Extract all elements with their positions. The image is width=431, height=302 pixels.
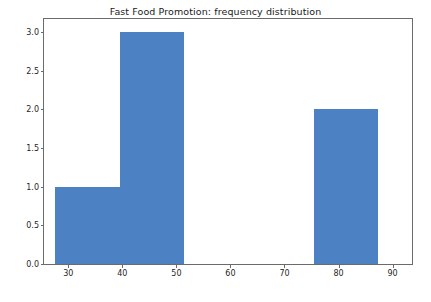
y-tick-mark bbox=[41, 71, 45, 72]
chart-figure: Fast Food Promotion: frequency distribut… bbox=[0, 0, 431, 302]
y-tick-label: 2.0 bbox=[26, 105, 39, 114]
x-tick-label: 70 bbox=[279, 269, 289, 278]
y-tick-label: 1.0 bbox=[26, 182, 39, 191]
chart-title: Fast Food Promotion: frequency distribut… bbox=[0, 6, 431, 17]
x-tick-mark bbox=[284, 264, 285, 268]
y-tick-mark bbox=[41, 187, 45, 188]
x-tick-label: 60 bbox=[225, 269, 235, 278]
x-tick-mark bbox=[339, 264, 340, 268]
x-tick-mark bbox=[393, 264, 394, 268]
x-tick-mark bbox=[68, 264, 69, 268]
bar bbox=[120, 32, 184, 264]
bar bbox=[314, 109, 379, 264]
y-tick-label: 0.0 bbox=[26, 260, 39, 269]
y-tick-label: 0.5 bbox=[26, 221, 39, 230]
x-tick-mark bbox=[230, 264, 231, 268]
y-tick-label: 3.0 bbox=[26, 28, 39, 37]
y-tick-mark bbox=[41, 225, 45, 226]
y-tick-mark bbox=[41, 264, 45, 265]
y-tick-mark bbox=[41, 32, 45, 33]
x-tick-label: 30 bbox=[63, 269, 73, 278]
x-tick-mark bbox=[122, 264, 123, 268]
x-tick-label: 80 bbox=[333, 269, 343, 278]
x-tick-label: 90 bbox=[387, 269, 397, 278]
bars-layer bbox=[44, 19, 412, 264]
x-tick-mark bbox=[176, 264, 177, 268]
y-tick-label: 1.5 bbox=[26, 144, 39, 153]
y-tick-mark bbox=[41, 109, 45, 110]
x-tick-label: 40 bbox=[117, 269, 127, 278]
y-tick-label: 2.5 bbox=[26, 66, 39, 75]
plot-area: 0.00.51.01.52.02.53.0 30405060708090 bbox=[43, 18, 413, 265]
bar bbox=[55, 187, 120, 264]
x-tick-label: 50 bbox=[171, 269, 181, 278]
y-tick-mark bbox=[41, 148, 45, 149]
